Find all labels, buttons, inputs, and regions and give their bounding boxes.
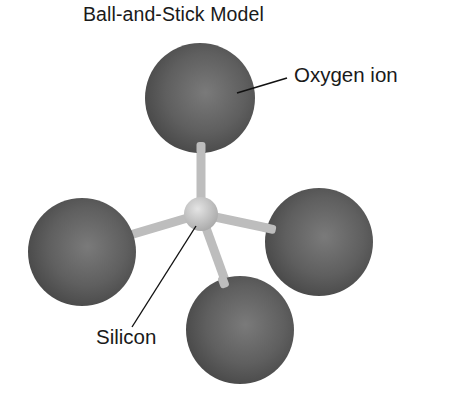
bond-stub-top	[197, 142, 206, 154]
oxygen-ion-label: Oxygen ion	[294, 63, 398, 87]
oxygen-ion-top	[145, 43, 255, 153]
silicon-atom	[184, 197, 218, 231]
oxygen-ion-bottom	[186, 276, 294, 384]
oxygen-ion-left	[28, 198, 136, 306]
silicon-label: Silicon	[96, 325, 156, 349]
ball-and-stick-diagram	[0, 0, 453, 398]
oxygen-ion-right	[265, 188, 373, 296]
silicon-leader-line	[132, 226, 196, 327]
diagram-title: Ball-and-Stick Model	[83, 3, 264, 26]
